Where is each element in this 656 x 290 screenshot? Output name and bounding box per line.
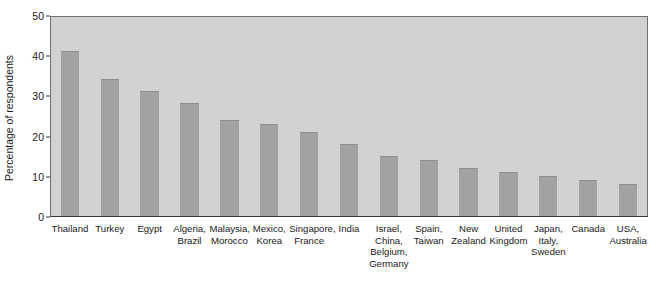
y-axis-tick-label: 40	[32, 51, 44, 62]
bar	[220, 120, 238, 216]
y-axis-tick-label: 30	[32, 91, 44, 102]
x-axis-category-label: United Kingdom	[489, 223, 529, 246]
y-axis-title: Percentage of respondents	[1, 18, 17, 218]
plot-area	[50, 16, 648, 217]
x-axis-category-label: Canada	[568, 223, 608, 235]
y-axis: 01020304050	[20, 0, 50, 290]
x-axis-category-label: Egypt	[130, 223, 170, 235]
x-axis-category-label: India	[329, 223, 369, 235]
x-axis-category-label: Israel, China, Belgium, Germany	[369, 223, 409, 269]
x-axis-category-label: USA, Australia	[608, 223, 648, 246]
bar	[539, 176, 557, 216]
y-axis-tick-label: 50	[32, 11, 44, 22]
bar	[619, 184, 637, 216]
bar	[101, 79, 119, 216]
bar	[579, 180, 597, 216]
bar	[459, 168, 477, 216]
bar	[140, 91, 158, 216]
x-axis-category-label: Turkey	[90, 223, 130, 235]
x-axis-category-label: New Zealand	[449, 223, 489, 246]
bar	[180, 103, 198, 216]
x-axis-line	[50, 216, 648, 217]
bar	[340, 144, 358, 216]
x-axis-category-label: Mexico, Korea	[249, 223, 289, 246]
x-axis-labels: ThailandTurkeyEgyptAlgeria, BrazilMalays…	[50, 223, 648, 285]
x-axis-category-label: Malaysia, Morocco	[209, 223, 249, 246]
bar	[260, 124, 278, 216]
y-axis-tick-label: 10	[32, 172, 44, 183]
y-axis-title-label: Percentage of respondents	[4, 55, 15, 181]
x-axis-category-label: Algeria, Brazil	[170, 223, 210, 246]
bar	[499, 172, 517, 216]
y-axis-tick-label: 0	[38, 212, 44, 223]
bar	[61, 51, 79, 216]
x-axis-category-label: Japan, Italy, Sweden	[528, 223, 568, 258]
bars-layer	[51, 17, 647, 216]
bar	[420, 160, 438, 216]
x-axis-category-label: Singapore, France	[289, 223, 329, 246]
x-axis-category-label: Spain, Taiwan	[409, 223, 449, 246]
bar	[300, 132, 318, 216]
bar	[380, 156, 398, 216]
bar-chart-figure: Percentage of respondents 01020304050 Th…	[0, 0, 656, 290]
y-axis-tick-label: 20	[32, 131, 44, 142]
x-axis-category-label: Thailand	[50, 223, 90, 235]
